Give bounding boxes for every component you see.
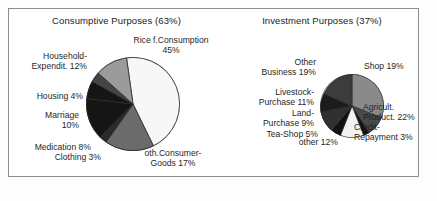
panel-investment-purposes: Investment Purposes (37%) [224, 9, 420, 176]
label-other-business: Other Business 19% [234, 57, 316, 77]
label-land-purchase: Land- Purchase 9% [226, 108, 314, 128]
figure-root: Consumptive Purposes (63%) [0, 0, 437, 201]
label-credit-repayment: Credit- Repayment 3% [354, 122, 424, 142]
pie-chart-consumptive [86, 57, 180, 151]
label-medication: Medication 8% [11, 142, 91, 152]
label-housing: Housing 4% [13, 91, 83, 101]
label-household-expenditure: Household- Expendit. 12% [13, 51, 87, 71]
panel-title-investment: Investment Purposes (37%) [224, 15, 420, 26]
label-clothing: Clothing 3% [19, 152, 101, 162]
label-marriage: Marriage 10% [15, 110, 79, 130]
label-livestock-purchase: Livestock- Purchase 11% [226, 87, 314, 107]
figure-frame: Consumptive Purposes (63%) [8, 8, 419, 177]
panel-consumptive-purposes: Consumptive Purposes (63%) [9, 9, 224, 176]
label-rice-for-consumption: Rice f.Consumption 45% [121, 35, 221, 55]
label-shop: Shop 19% [364, 61, 424, 71]
label-other-consumer-goods: oth.Consumer- Goods 17% [127, 148, 219, 168]
label-agricultural-production: Agricult. Product. 22% [363, 102, 425, 122]
label-other: other 12% [234, 137, 338, 147]
panel-title-consumptive: Consumptive Purposes (63%) [9, 15, 224, 26]
pie-slices-consumptive [86, 57, 180, 151]
